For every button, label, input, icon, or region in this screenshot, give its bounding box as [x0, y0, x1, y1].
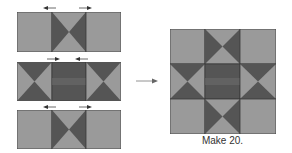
press-arrow-right-icon [78, 4, 92, 12]
press-arrow-right-icon [46, 55, 60, 63]
plain-square [17, 110, 52, 149]
hourglass-unit [86, 62, 121, 101]
hourglass-unit [52, 12, 86, 52]
process-arrow-icon [136, 77, 158, 85]
press-arrow-right-icon [78, 103, 92, 111]
top-row-strip [17, 12, 121, 52]
press-arrow-left-icon [75, 55, 89, 63]
make-count-caption: Make 20. [170, 135, 275, 146]
middle-row-strip [17, 62, 121, 101]
hourglass-unit [17, 62, 52, 101]
plain-square [17, 12, 52, 52]
finished-star-block [170, 29, 276, 134]
hourglass-unit [52, 110, 86, 149]
press-arrow-left-icon [43, 4, 57, 12]
press-arrow-left-icon [43, 103, 57, 111]
bottom-row-strip [17, 110, 121, 149]
plain-square [86, 110, 121, 149]
plain-square [86, 12, 121, 52]
